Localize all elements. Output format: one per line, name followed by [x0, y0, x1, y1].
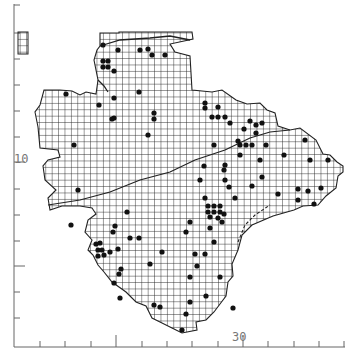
- record-dot: [201, 163, 206, 168]
- x-axis-ticks: [40, 335, 344, 347]
- record-dot: [151, 302, 156, 307]
- record-dot: [221, 211, 226, 216]
- record-dot: [100, 42, 105, 47]
- record-dot: [147, 261, 152, 266]
- record-dot: [230, 305, 235, 310]
- record-dot: [211, 209, 216, 214]
- record-dot: [99, 247, 104, 252]
- record-dot: [215, 114, 220, 119]
- record-dot: [187, 274, 192, 279]
- record-dot: [101, 252, 106, 257]
- record-dot: [227, 120, 232, 125]
- record-dot: [145, 46, 150, 51]
- record-dot: [109, 116, 114, 121]
- record-dot: [107, 249, 112, 254]
- record-dot: [118, 266, 123, 271]
- record-dot: [151, 116, 156, 121]
- record-dot: [211, 203, 216, 208]
- county-area: [35, 32, 343, 333]
- record-dot: [207, 225, 212, 230]
- record-dot: [151, 110, 156, 115]
- record-dot: [202, 195, 207, 200]
- record-dot: [97, 240, 102, 245]
- record-dot: [68, 222, 73, 227]
- record-dot: [149, 52, 154, 57]
- record-dot: [162, 52, 167, 57]
- record-dot: [222, 177, 227, 182]
- record-dot: [243, 142, 248, 147]
- record-dot: [137, 47, 142, 52]
- record-dot: [259, 120, 264, 125]
- record-dot: [211, 239, 216, 244]
- record-dot: [63, 91, 68, 96]
- x-axis-label: 30: [232, 330, 246, 344]
- record-dot: [202, 105, 207, 110]
- record-dot: [194, 263, 199, 268]
- record-dot: [96, 102, 101, 107]
- record-dot: [217, 203, 222, 208]
- record-dot: [100, 58, 105, 63]
- record-dot: [237, 152, 242, 157]
- record-dot: [95, 253, 100, 258]
- record-dot: [205, 203, 210, 208]
- record-dot: [183, 311, 188, 316]
- record-dot: [215, 104, 220, 109]
- inset-island: [18, 32, 28, 54]
- record-dot: [249, 183, 254, 188]
- record-dot: [157, 304, 162, 309]
- y-axis-label: 10: [14, 152, 28, 166]
- record-dot: [211, 142, 216, 147]
- record-dot: [249, 142, 254, 147]
- distribution-map: 30 10: [0, 0, 353, 363]
- record-dot: [202, 251, 207, 256]
- record-dot: [259, 174, 264, 179]
- record-dot: [318, 185, 323, 190]
- record-dot: [127, 235, 132, 240]
- record-dot: [263, 142, 268, 147]
- record-dot: [307, 157, 312, 162]
- record-dot: [192, 251, 197, 256]
- record-dot: [222, 162, 227, 167]
- record-dot: [111, 95, 116, 100]
- record-dot: [241, 126, 246, 131]
- record-dot: [311, 201, 316, 206]
- record-dot: [203, 293, 208, 298]
- record-dot: [116, 271, 121, 276]
- record-dot: [136, 89, 141, 94]
- record-dot: [111, 280, 116, 285]
- record-dot: [209, 114, 214, 119]
- record-dot: [205, 209, 210, 214]
- record-dot: [112, 223, 117, 228]
- record-dot: [257, 157, 262, 162]
- record-dot: [75, 187, 80, 192]
- record-dot: [295, 186, 300, 191]
- record-dot: [295, 197, 300, 202]
- record-dot: [226, 184, 231, 189]
- record-dot: [105, 58, 110, 63]
- record-dot: [302, 137, 307, 142]
- record-dot: [183, 229, 188, 234]
- record-dot: [219, 219, 224, 224]
- record-dot: [105, 64, 110, 69]
- record-dot: [187, 219, 192, 224]
- record-dot: [124, 209, 129, 214]
- record-dot: [136, 235, 141, 240]
- record-dot: [281, 152, 286, 157]
- record-dot: [221, 167, 226, 172]
- record-dot: [207, 214, 212, 219]
- record-dot: [111, 68, 116, 73]
- record-dot: [187, 299, 192, 304]
- record-dot: [253, 130, 258, 135]
- record-dot: [115, 246, 120, 251]
- record-dot: [215, 215, 220, 220]
- record-dot: [100, 64, 105, 69]
- record-dot: [217, 274, 222, 279]
- record-dot: [159, 249, 164, 254]
- record-dot: [110, 229, 115, 234]
- record-dot: [202, 100, 207, 105]
- record-dot: [71, 142, 76, 147]
- record-dot: [145, 132, 150, 137]
- record-dot: [222, 114, 227, 119]
- record-dot: [232, 195, 237, 200]
- record-dot: [115, 47, 120, 52]
